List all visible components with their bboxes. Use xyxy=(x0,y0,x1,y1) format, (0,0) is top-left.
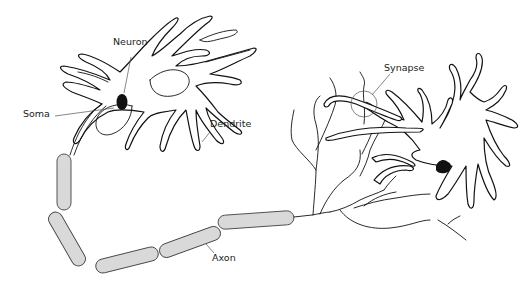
dendrite-curl xyxy=(372,155,415,167)
axon-label: Axon xyxy=(212,252,236,263)
dendrite-lower xyxy=(448,216,460,224)
axon-terminals xyxy=(291,72,430,228)
neuron-label: Neuron xyxy=(113,36,148,47)
left-neuron-body xyxy=(61,16,257,151)
dendrite-leader-line xyxy=(202,132,210,142)
myelin-segment xyxy=(46,210,88,269)
nucleus-left xyxy=(117,94,128,110)
dendrite-label: Dendrite xyxy=(210,118,251,129)
axon xyxy=(46,154,294,275)
myelin-segment xyxy=(94,245,159,274)
right-neuron xyxy=(324,54,518,241)
left-neuron xyxy=(61,16,257,151)
dendrite-lower xyxy=(438,220,466,240)
neuron-diagram: Neuron Soma Dendrite Synapse Axon xyxy=(0,0,530,282)
dendrite-loop xyxy=(200,30,237,42)
myelin-segment xyxy=(57,154,71,210)
soma-label: Soma xyxy=(23,108,50,119)
synapse-label: Synapse xyxy=(384,62,424,73)
neuron-illustration xyxy=(0,0,530,282)
myelin-segment xyxy=(218,210,295,229)
dendrite-curl xyxy=(374,166,413,184)
